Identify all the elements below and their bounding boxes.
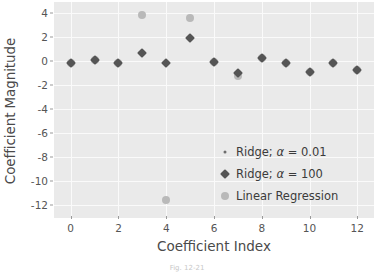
legend-item[interactable]: Ridge; α = 100 [214, 164, 323, 184]
legend-item[interactable]: Ridge; α = 0.01 [214, 142, 327, 162]
y-axis-tick-mark [50, 36, 53, 37]
x-axis-tick-mark [71, 216, 72, 219]
y-axis-tick-mark [50, 204, 53, 205]
data-point [161, 58, 171, 68]
x-axis-tick-mark [214, 216, 215, 219]
figure: Coefficient Magnitude 420-2-4-6-8-10-120… [0, 0, 374, 275]
data-point [186, 14, 194, 22]
y-axis-tick-label: 4 [8, 7, 48, 19]
x-axis-tick-label: 12 [342, 222, 372, 234]
y-axis-tick-mark [50, 108, 53, 109]
x-axis-tick-mark [118, 216, 119, 219]
y-axis-tick-mark [50, 12, 53, 13]
data-point [257, 53, 267, 63]
data-point [162, 196, 170, 204]
y-axis-tick-mark [50, 132, 53, 133]
y-axis-tick-label: -10 [8, 175, 48, 187]
y-axis-tick-label: -8 [8, 151, 48, 163]
y-axis-tick-label: 0 [8, 55, 48, 67]
x-axis-tick-label: 6 [199, 222, 229, 234]
x-axis-tick-mark [166, 216, 167, 219]
x-axis-tick-label: 8 [247, 222, 277, 234]
y-axis-tick-mark [50, 84, 53, 85]
y-axis-tick-mark [50, 156, 53, 157]
data-point [138, 11, 146, 19]
gridline-vertical [71, 2, 72, 218]
x-axis-tick-label: 2 [103, 222, 133, 234]
y-axis-tick-label: -4 [8, 103, 48, 115]
x-axis-tick-label: 4 [151, 222, 181, 234]
x-axis-tick-label: 0 [56, 222, 86, 234]
legend-marker-circle-icon [214, 186, 236, 206]
y-axis-tick-label: 2 [8, 31, 48, 43]
y-axis-tick-label: -12 [8, 199, 48, 211]
data-point [352, 65, 362, 75]
x-axis-label: Coefficient Index [54, 238, 374, 254]
x-axis-tick-mark [357, 216, 358, 219]
legend-label: Ridge; α = 0.01 [236, 145, 327, 159]
legend-label: Linear Regression [236, 189, 338, 203]
y-axis-tick-mark [50, 60, 53, 61]
figure-caption: Fig. 12-21 [0, 264, 374, 272]
legend-marker-diamond-icon [214, 164, 236, 184]
gridline-vertical [118, 2, 119, 218]
legend-label: Ridge; α = 100 [236, 167, 323, 181]
legend-marker-dot-icon [214, 142, 236, 162]
legend-item[interactable]: Linear Regression [214, 186, 338, 206]
y-axis-tick-label: -2 [8, 79, 48, 91]
data-point [209, 57, 219, 67]
x-axis-tick-mark [310, 216, 311, 219]
gridline-vertical [166, 2, 167, 218]
y-axis-tick-mark [50, 180, 53, 181]
data-point [185, 33, 195, 43]
x-axis-tick-mark [262, 216, 263, 219]
y-axis-tick-label: -6 [8, 127, 48, 139]
data-point [137, 48, 147, 58]
chart-legend: Ridge; α = 0.01Ridge; α = 100Linear Regr… [214, 142, 370, 206]
x-axis-tick-label: 10 [295, 222, 325, 234]
data-point [114, 58, 124, 68]
